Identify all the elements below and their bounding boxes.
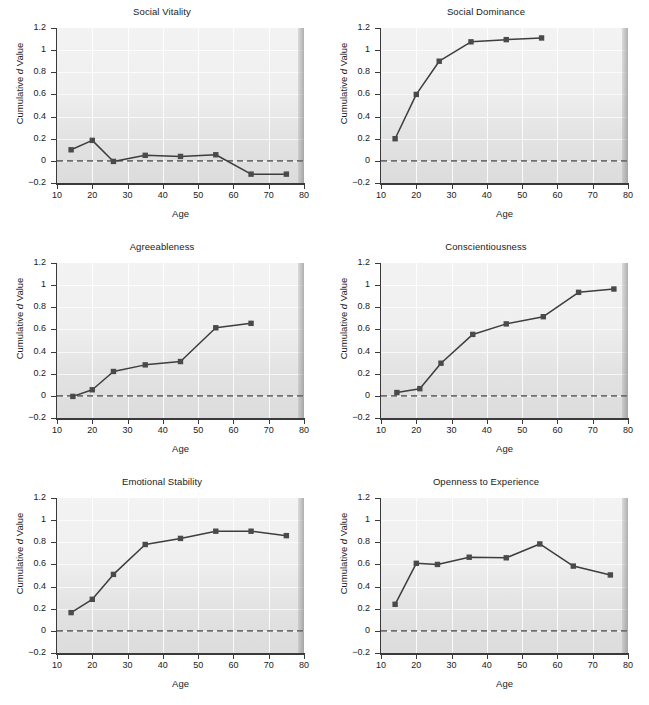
gridline-vertical [304,28,305,183]
y-axis-line [56,263,57,419]
y-axis-tick [51,94,56,95]
y-axis-tick [51,161,56,162]
x-axis-tick [416,654,417,659]
y-axis-title-suffix: Value [14,43,25,69]
gridline-vertical [304,263,305,418]
y-axis-title-suffix: Value [338,278,349,304]
y-axis-title: Cumulative d Value [14,4,25,164]
y-axis-tick [51,564,56,565]
data-point-marker [417,386,422,391]
x-axis-tick-label: 40 [472,190,502,200]
x-axis-tick-label: 60 [218,425,248,435]
y-axis-tick [51,329,56,330]
y-axis-title-prefix: Cumulative [14,544,25,594]
plot-area [57,28,304,183]
x-axis-title: Age [57,678,304,689]
y-axis-tick [51,285,56,286]
y-axis-title-symbol: d [338,69,349,74]
x-axis-tick [452,419,453,424]
y-axis-tick [51,72,56,73]
x-axis-line [56,418,305,420]
data-point-marker [111,369,116,374]
y-axis-title-prefix: Cumulative [14,74,25,124]
x-axis-tick [593,419,594,424]
data-point-marker [392,602,397,607]
chart-panel: Social Vitality−0.200.20.40.60.811.21020… [0,0,324,235]
data-point-marker [537,541,542,546]
x-axis-tick [57,184,58,189]
y-axis-title-symbol: d [338,304,349,309]
x-axis-tick-label: 70 [578,425,608,435]
x-axis-tick-label: 40 [148,425,178,435]
data-point-marker [248,171,253,176]
x-axis-tick [198,184,199,189]
x-axis-tick-label: 20 [401,660,431,670]
y-axis-line [56,28,57,184]
y-axis-title-suffix: Value [14,513,25,539]
x-axis-tick [92,184,93,189]
data-point-marker [467,555,472,560]
chart-panel: Social Dominance−0.200.20.40.60.811.2102… [324,0,648,235]
y-axis-tick [375,28,380,29]
y-axis-title: Cumulative d Value [338,4,349,164]
data-point-marker [178,359,183,364]
x-axis-tick [57,654,58,659]
x-axis-tick [269,654,270,659]
data-point-marker [504,321,509,326]
y-axis-tick [375,418,380,419]
x-axis-title: Age [381,678,628,689]
x-axis-tick-label: 70 [578,190,608,200]
x-axis-tick-label: 10 [42,425,72,435]
x-axis-tick [269,419,270,424]
x-axis-tick-label: 70 [254,660,284,670]
x-axis-tick-label: 50 [507,190,537,200]
series-layer [57,498,304,653]
x-axis-tick-label: 40 [148,190,178,200]
data-point-marker [143,362,148,367]
x-axis-tick [92,419,93,424]
y-axis-line [380,498,381,654]
data-point-marker [178,154,183,159]
y-axis-tick [375,352,380,353]
data-point-marker [111,159,116,164]
data-point-marker [438,361,443,366]
x-axis-tick [416,184,417,189]
y-axis-tick [375,374,380,375]
x-axis-tick-label: 50 [507,425,537,435]
x-axis-tick-label: 60 [542,660,572,670]
x-axis-tick-label: 30 [113,425,143,435]
y-axis-title-prefix: Cumulative [338,309,349,359]
x-axis-tick [381,184,382,189]
data-point-marker [68,610,73,615]
x-axis-tick-label: 60 [218,660,248,670]
y-axis-tick [51,520,56,521]
y-axis-tick [51,587,56,588]
x-axis-tick-label: 30 [113,190,143,200]
x-axis-title: Age [57,208,304,219]
x-axis-tick-label: 10 [366,660,396,670]
y-axis-tick [51,542,56,543]
y-axis-tick-label: −0.2 [324,412,370,422]
y-axis-tick [375,653,380,654]
y-axis-title-symbol: d [14,304,25,309]
data-point-marker [468,39,473,44]
multi-panel-line-chart-figure: Social Vitality−0.200.20.40.60.811.21020… [0,0,649,705]
y-axis-tick-label: −0.2 [0,647,46,657]
x-axis-tick [304,419,305,424]
x-axis-tick [557,419,558,424]
y-axis-title: Cumulative d Value [14,239,25,399]
x-axis-tick-label: 80 [289,660,319,670]
data-point-marker [90,597,95,602]
x-axis-tick-label: 10 [366,425,396,435]
y-axis-title-prefix: Cumulative [338,544,349,594]
gridline-vertical [628,498,629,653]
x-axis-tick-label: 20 [77,190,107,200]
x-axis-tick-label: 30 [437,190,467,200]
y-axis-tick [51,498,56,499]
panel-title: Social Vitality [0,6,324,17]
x-axis-line [56,653,305,655]
chart-panel: Agreeableness−0.200.20.40.60.811.2102030… [0,235,324,470]
y-axis-line [56,498,57,654]
x-axis-tick-label: 20 [401,190,431,200]
x-axis-line [380,653,629,655]
